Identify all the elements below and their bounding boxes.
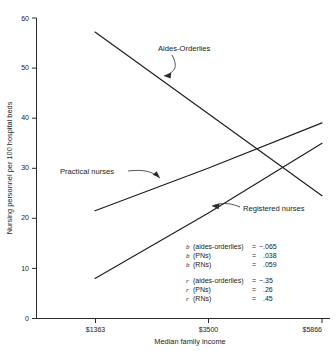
slope-symbol-2: b <box>186 261 190 269</box>
series-label-registered-nurses: Registered nurses <box>243 204 305 213</box>
y-tick-label-0: 0 <box>25 315 29 322</box>
slope-eq-0: = <box>252 243 256 250</box>
slope-value-1: .038 <box>263 252 277 259</box>
corr-value-0: −.35 <box>259 277 273 284</box>
x-tick-label-5866: $5866 <box>303 326 323 333</box>
y-tick-label-60: 60 <box>21 15 29 22</box>
corr-eq-0: = <box>252 277 256 284</box>
chart-figure: 0 10 20 30 40 50 60 Nursing personnel pe… <box>0 0 336 351</box>
corr-symbol-1: r <box>186 286 189 294</box>
corr-symbol-0: r <box>186 277 189 285</box>
series-label-practical-nurses: Practical nurses <box>60 167 114 176</box>
slope-value-0: −.065 <box>259 243 277 250</box>
corr-value-1: .26 <box>263 286 273 293</box>
corr-value-2: .45 <box>263 295 273 302</box>
y-tick-label-50: 50 <box>21 64 29 71</box>
y-tick-label-10: 10 <box>21 265 29 272</box>
y-axis-title: Nursing personnel per 100 hospital beds <box>5 101 14 234</box>
y-tick-label-40: 40 <box>21 114 29 121</box>
y-tick-label-20: 20 <box>21 214 29 221</box>
x-axis-title: Median family income <box>154 337 225 346</box>
corr-subject-1: (PNs) <box>193 286 211 294</box>
slope-symbol-0: b <box>186 243 190 251</box>
chart-canvas: 0 10 20 30 40 50 60 Nursing personnel pe… <box>0 0 336 351</box>
corr-eq-2: = <box>252 295 256 302</box>
x-tick-label-3500: $3500 <box>199 326 219 333</box>
series-label-aides-orderlies: Aides-Orderlies <box>158 44 211 53</box>
slope-subject-2: (RNs) <box>193 261 211 269</box>
corr-eq-1: = <box>252 286 256 293</box>
slope-eq-1: = <box>252 252 256 259</box>
y-tick-label-30: 30 <box>21 164 29 171</box>
slope-symbol-1: b <box>186 252 190 260</box>
x-tick-label-1363: $1363 <box>86 326 106 333</box>
corr-subject-0: (aides-orderlies) <box>193 277 244 285</box>
corr-symbol-2: r <box>186 295 189 303</box>
slope-subject-0: (aides-orderlies) <box>193 243 244 251</box>
slope-subject-1: (PNs) <box>193 252 211 260</box>
slope-value-2: .059 <box>263 261 277 268</box>
corr-subject-2: (RNs) <box>193 295 211 303</box>
slope-eq-2: = <box>252 261 256 268</box>
